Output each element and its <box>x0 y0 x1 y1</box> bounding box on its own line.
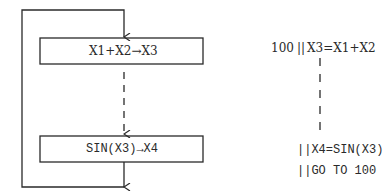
code: X3=X1+X2 <box>307 41 376 55</box>
bars: || <box>297 143 311 157</box>
program-line-2: ||X4=SIN(X3) <box>297 143 383 157</box>
program-line-1: 100||X3=X1+X2 <box>271 41 376 55</box>
bars: || <box>297 164 311 178</box>
loop-back-line <box>22 10 124 187</box>
code: GO TO 100 <box>311 164 376 178</box>
box2-label: SIN(X3)→X4 <box>86 142 158 156</box>
bars: || <box>297 41 305 55</box>
code: X4=SIN(X3) <box>311 143 383 157</box>
statement-label: 100 <box>271 41 294 55</box>
box1-label: X1+X2→X3 <box>89 44 158 58</box>
program-line-3: ||GO TO 100 <box>297 164 376 178</box>
